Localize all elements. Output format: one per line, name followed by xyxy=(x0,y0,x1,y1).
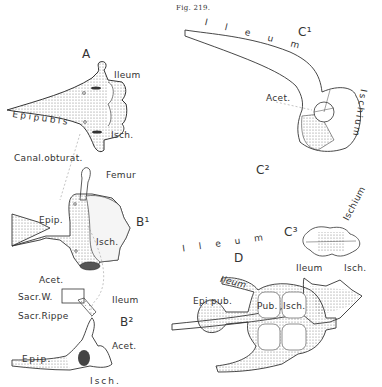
panel-a-label: A xyxy=(82,48,91,60)
panel-c1-drawing xyxy=(185,30,361,151)
panel-b2-sacr-rippe-label: Sacr.Rippe xyxy=(18,312,69,321)
panel-b2-epip-label: Epip. xyxy=(22,355,52,364)
panel-c3-ileum-label: Ileum xyxy=(296,264,323,273)
panel-c3-isch-label: Isch. xyxy=(344,264,366,273)
panel-b1-epip-label: Epip. xyxy=(39,216,63,225)
panel-d-epipub-label: Epi pub. xyxy=(193,297,232,306)
panel-b1-acet-label: Acet. xyxy=(39,276,63,285)
panel-b2-acet-label: Acet. xyxy=(112,342,136,351)
figure-number: Fig. 219. xyxy=(176,4,210,13)
panel-a-femur-label: Femur xyxy=(106,171,136,180)
panel-d-pub-label: Pub. xyxy=(257,302,278,311)
panel-d-isch-label: Isch. xyxy=(283,302,305,311)
panel-c1-label: C¹ xyxy=(298,26,312,38)
panel-c3-label: C³ xyxy=(284,226,298,238)
panel-c2-label: C² xyxy=(256,164,270,176)
panel-b1-drawing xyxy=(12,194,130,270)
panel-a-canal-obturat-label: Canal.obturat. xyxy=(14,154,83,163)
panel-b2-isch-label: Isch. xyxy=(90,377,121,386)
panel-b2-sacr-w-label: Sacr.W. xyxy=(18,293,53,302)
panel-c1-acet-label: Acet. xyxy=(266,94,290,103)
panel-c3-drawing xyxy=(303,227,360,256)
panel-b2-label: B² xyxy=(120,316,134,328)
figure-drawing xyxy=(0,0,382,387)
panel-b1-isch-label: Isch. xyxy=(96,238,118,247)
panel-a-ileum-label: Ileum xyxy=(114,71,141,80)
panel-b1-label: B¹ xyxy=(136,216,150,228)
panel-a-isch-label: Isch. xyxy=(111,131,133,140)
panel-b2-ileum-label: Ileum xyxy=(112,296,139,305)
panel-d-label: D xyxy=(234,252,244,264)
